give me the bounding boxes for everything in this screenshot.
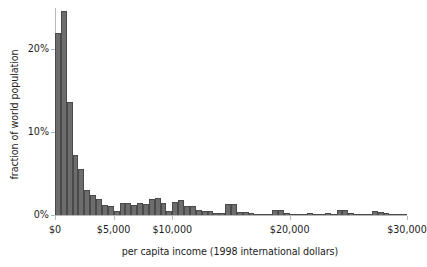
x-tick-mark	[407, 216, 408, 220]
x-tick-mark	[290, 216, 291, 220]
x-tick-mark	[114, 216, 115, 220]
x-tick-label: $5,000	[97, 224, 131, 236]
y-tick-label: 20%	[28, 44, 49, 54]
x-tick-mark	[172, 216, 173, 220]
y-tick-label: 10%	[28, 127, 49, 137]
x-tick-label: $10,000	[152, 224, 192, 236]
x-tick-label: $0	[49, 224, 61, 236]
plot-area	[55, 8, 407, 215]
histogram-bar	[401, 214, 407, 215]
x-tick-label: $20,000	[270, 224, 310, 236]
y-axis-title: fraction of world population	[6, 7, 24, 222]
x-axis-spine	[55, 215, 407, 216]
y-tick-label: 0%	[34, 210, 49, 220]
x-axis-title: per capita income (1998 international do…	[55, 246, 405, 257]
x-tick-label: $30,000	[387, 224, 427, 236]
x-tick-mark	[55, 216, 56, 220]
